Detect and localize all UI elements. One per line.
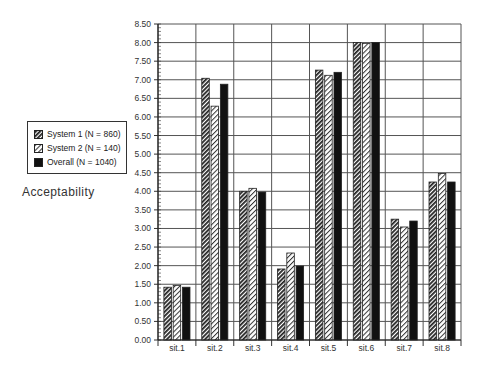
bar bbox=[315, 70, 323, 340]
legend: System 1 (N = 860) System 2 (N = 140) Ov… bbox=[27, 121, 127, 174]
x-tick-label: sit.1 bbox=[169, 343, 185, 353]
bar bbox=[429, 182, 437, 340]
bar bbox=[220, 84, 228, 340]
bar bbox=[249, 188, 257, 340]
y-tick-label: 0.50 bbox=[134, 316, 151, 326]
y-tick-label: 1.00 bbox=[134, 298, 151, 308]
y-tick-label: 2.00 bbox=[134, 261, 151, 271]
y-tick-label: 6.00 bbox=[134, 112, 151, 122]
y-tick-label: 3.50 bbox=[134, 205, 151, 215]
bar bbox=[296, 266, 304, 340]
bar bbox=[258, 192, 266, 340]
legend-swatch-solid-icon bbox=[34, 158, 43, 167]
bar bbox=[391, 219, 399, 340]
bar bbox=[240, 191, 248, 340]
bar bbox=[325, 75, 333, 340]
x-tick-label: sit.5 bbox=[321, 343, 337, 353]
legend-label: System 2 (N = 140) bbox=[47, 143, 120, 153]
y-tick-label: 5.00 bbox=[134, 149, 151, 159]
x-tick-label: sit.6 bbox=[359, 343, 375, 353]
y-tick-label: 7.00 bbox=[134, 75, 151, 85]
bar bbox=[363, 43, 371, 340]
y-axis-label: Acceptability bbox=[22, 185, 95, 199]
x-tick-label: sit.7 bbox=[396, 343, 412, 353]
legend-swatch-dense-hatch-icon bbox=[34, 130, 43, 139]
y-tick-label: 8.50 bbox=[134, 19, 151, 29]
bar bbox=[287, 253, 295, 340]
bar bbox=[164, 287, 172, 340]
legend-item-system-2: System 2 (N = 140) bbox=[34, 142, 120, 154]
bar bbox=[334, 72, 342, 340]
y-tick-label: 2.50 bbox=[134, 242, 151, 252]
y-tick-label: 3.00 bbox=[134, 223, 151, 233]
x-tick-label: sit.2 bbox=[207, 343, 223, 353]
bar bbox=[372, 43, 380, 340]
legend-label: System 1 (N = 860) bbox=[47, 129, 120, 139]
y-tick-label: 0.00 bbox=[134, 335, 151, 345]
y-tick-label: 8.00 bbox=[134, 38, 151, 48]
y-tick-label: 1.50 bbox=[134, 279, 151, 289]
legend-label: Overall (N = 1040) bbox=[47, 157, 117, 167]
bar bbox=[438, 173, 446, 340]
bar bbox=[353, 43, 361, 340]
x-tick-label: sit.4 bbox=[283, 343, 299, 353]
legend-swatch-light-hatch-icon bbox=[34, 144, 43, 153]
bar bbox=[182, 287, 190, 340]
bar bbox=[400, 227, 408, 340]
bar bbox=[448, 182, 456, 340]
x-tick-label: sit.3 bbox=[245, 343, 261, 353]
bar bbox=[278, 269, 286, 340]
y-tick-label: 6.50 bbox=[134, 93, 151, 103]
y-tick-label: 4.00 bbox=[134, 186, 151, 196]
bar bbox=[211, 106, 219, 340]
bar bbox=[410, 221, 418, 340]
bar bbox=[202, 78, 210, 340]
legend-item-overall: Overall (N = 1040) bbox=[34, 156, 117, 168]
y-tick-label: 7.50 bbox=[134, 56, 151, 66]
legend-item-system-1: System 1 (N = 860) bbox=[34, 128, 120, 140]
y-tick-label: 5.50 bbox=[134, 131, 151, 141]
x-tick-label: sit.8 bbox=[434, 343, 450, 353]
y-tick-label: 4.50 bbox=[134, 168, 151, 178]
bar bbox=[173, 285, 181, 340]
